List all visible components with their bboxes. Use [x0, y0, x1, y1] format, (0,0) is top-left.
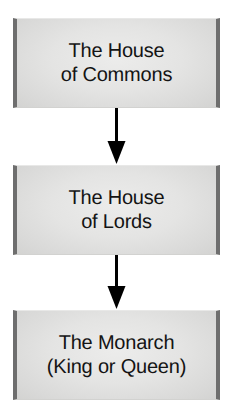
- down-arrow-icon: [101, 108, 132, 165]
- node-the-monarch-label: The Monarch (King or Queen): [47, 331, 186, 379]
- down-arrow-icon: [101, 255, 132, 310]
- node-house-of-lords[interactable]: The House of Lords: [13, 165, 220, 255]
- node-house-of-commons[interactable]: The House of Commons: [13, 18, 220, 108]
- node-the-monarch[interactable]: The Monarch (King or Queen): [13, 310, 220, 400]
- flowchart-diagram: The House of Commons The House of Lords …: [0, 0, 233, 418]
- connector-commons-to-lords: [101, 108, 132, 165]
- connector-lords-to-monarch: [101, 255, 132, 310]
- node-house-of-lords-label: The House of Lords: [68, 186, 164, 234]
- node-house-of-commons-label: The House of Commons: [61, 39, 172, 87]
